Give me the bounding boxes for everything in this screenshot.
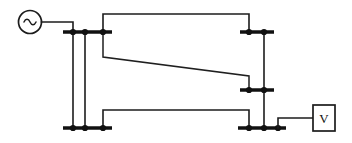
feeders-group xyxy=(73,32,264,128)
node-right-bottom-1 xyxy=(246,125,252,131)
voltmeter-group[interactable]: V xyxy=(278,105,335,131)
voltmeter-label: V xyxy=(319,111,329,126)
node-right-top-1 xyxy=(246,29,252,35)
node-right-bottom-2 xyxy=(261,125,267,131)
transmission-lines-group xyxy=(103,14,249,128)
node-left-top-2 xyxy=(82,29,88,35)
diagram-canvas: V xyxy=(0,0,352,143)
node-right-mid-2 xyxy=(261,87,267,93)
busbars-group xyxy=(63,32,286,128)
transmission-line-bottom[interactable] xyxy=(103,110,249,128)
node-left-top-3 xyxy=(100,29,106,35)
transmission-line-diagonal[interactable] xyxy=(103,32,249,90)
transmission-line-top[interactable] xyxy=(103,14,249,32)
node-right-top-2 xyxy=(261,29,267,35)
node-left-bottom-3 xyxy=(100,125,106,131)
power-system-single-line-diagram: V xyxy=(0,0,352,143)
node-left-bottom-2 xyxy=(82,125,88,131)
node-left-bottom-1 xyxy=(70,125,76,131)
ac-source-group[interactable] xyxy=(19,11,74,34)
node-right-mid-1 xyxy=(246,87,252,93)
node-left-top-1 xyxy=(70,29,76,35)
